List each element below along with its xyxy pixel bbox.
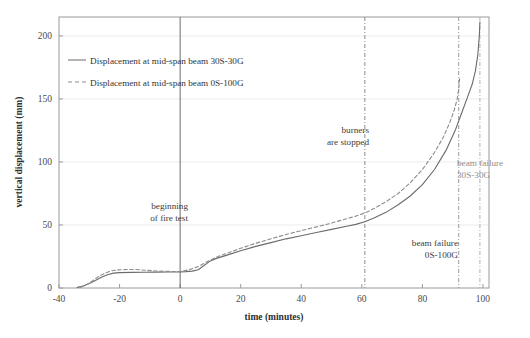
marker-label-beam-failure-0S-100G-line1: beam failure xyxy=(412,238,458,248)
y-axis-title: vertical displacement (mm) xyxy=(14,97,25,208)
marker-label-burners-are-stopped-line1: burners xyxy=(341,125,369,135)
x-tick-label--40: -40 xyxy=(53,294,66,304)
displacement-vs-time-chart: -40-20020406080100 050100150200 time (mi… xyxy=(0,0,530,338)
marker-label-beginning-of-fire-test-line2: of fire test xyxy=(150,213,188,223)
legend-label-0s-100g: Displacement at mid-span beam 0S-100G xyxy=(90,78,244,88)
x-tick-label-100: 100 xyxy=(476,294,491,304)
chart-figure: -40-20020406080100 050100150200 time (mi… xyxy=(0,0,530,338)
x-tick-label-40: 40 xyxy=(297,294,307,304)
marker-label-beam-failure-0S-100G-line2: 0S-100G xyxy=(425,250,459,260)
y-tick-label-50: 50 xyxy=(43,220,53,230)
x-tick-label-80: 80 xyxy=(418,294,428,304)
x-tick-label-60: 60 xyxy=(357,294,367,304)
x-tick-label--20: -20 xyxy=(113,294,126,304)
marker-label-beam-failure-30S-30G-line1: beam failure xyxy=(457,158,503,168)
x-tick-label-0: 0 xyxy=(178,294,183,304)
marker-label-beam-failure-30S-30G-line2: 30S-30G xyxy=(457,170,491,180)
x-axis-title: time (minutes) xyxy=(245,312,304,323)
y-tick-label-200: 200 xyxy=(38,31,53,41)
y-tick-label-0: 0 xyxy=(47,283,52,293)
marker-label-burners-are-stopped-line2: are stopped xyxy=(327,137,369,147)
y-tick-label-100: 100 xyxy=(38,157,53,167)
legend-label-30s-30g: Displacement at mid-span beam 30S-30G xyxy=(90,56,244,66)
marker-label-beginning-of-fire-test-line1: beginning xyxy=(151,201,188,211)
y-tick-label-150: 150 xyxy=(38,94,53,104)
x-tick-label-20: 20 xyxy=(236,294,246,304)
